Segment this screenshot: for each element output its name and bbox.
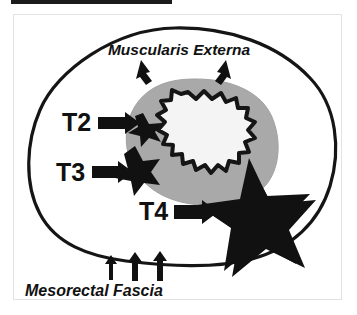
mesorectal-fascia-label: Mesorectal Fascia [25,282,163,299]
muscularis-externa-label: Muscularis Externa [108,41,251,58]
figure-root: Muscularis Externa T2 T3 T4 [0,0,357,315]
t4-label: T4 [139,197,168,225]
t2-label: T2 [62,108,91,136]
t3-label: T3 [56,158,85,186]
rectal-tnm-staging-diagram: Muscularis Externa T2 T3 T4 [0,0,357,315]
